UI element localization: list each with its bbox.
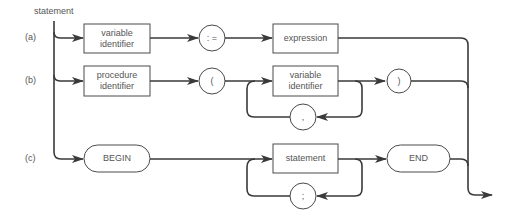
row-label-a: (a) <box>25 32 36 42</box>
b-rparen-label: ) <box>387 69 411 93</box>
b-procedure-identifier-label: procedure identifier <box>84 66 150 96</box>
c-begin-label: BEGIN <box>84 145 150 172</box>
b-variable-identifier-label: variable identifier <box>273 66 338 96</box>
c-end-label: END <box>387 145 450 172</box>
exit-bus <box>468 45 492 195</box>
row-label-b: (b) <box>25 75 36 85</box>
diagram-title: statement <box>34 6 74 16</box>
branch-b <box>54 75 83 81</box>
a-exit <box>338 38 468 45</box>
b-lparen-label: ( <box>199 68 225 94</box>
syntax-diagram <box>0 0 516 219</box>
c-exit <box>450 159 468 166</box>
row-label-c: (c) <box>25 153 36 163</box>
a-expression-label: expression <box>273 24 338 53</box>
entry-bus <box>54 21 83 159</box>
a-assign-label: : = <box>199 25 225 51</box>
branch-a <box>54 32 83 38</box>
c-statement-label: statement <box>273 144 338 173</box>
b-exit <box>411 81 468 88</box>
b-comma-label: , <box>290 104 316 130</box>
c-semicolon-label: ; <box>290 183 316 209</box>
a-variable-identifier-label: variable identifier <box>84 24 150 53</box>
